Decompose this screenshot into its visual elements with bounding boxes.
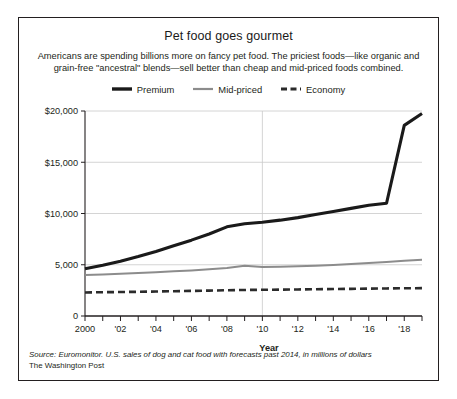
chart-subtitle: Americans are spending billions more on … (28, 50, 429, 75)
x-tick-label: '10 (256, 324, 268, 334)
x-tick-label: '14 (327, 324, 339, 334)
data-series (85, 113, 422, 292)
legend-item-economy[interactable]: Economy (281, 84, 345, 95)
source-text: Source: Euromonitor. U.S. sales of dog a… (29, 349, 372, 360)
x-tick-label: '12 (292, 324, 304, 334)
plot-area: 05,000$10,000$15,000$20,000 2000'02'04'0… (19, 101, 438, 359)
y-axis-tick-labels: 05,000$10,000$15,000$20,000 (45, 106, 78, 321)
legend-label-premium: Premium (137, 84, 175, 95)
page-title: Pet food goes gourmet (19, 29, 438, 43)
series-line-premium (85, 113, 422, 268)
series-line-mid-priced (85, 259, 422, 274)
gridlines (81, 111, 422, 316)
chart-legend: Premium Mid-priced Economy (19, 84, 438, 95)
y-tick-label: $20,000 (45, 106, 78, 116)
legend-item-mid-priced[interactable]: Mid-priced (193, 84, 262, 95)
legend-item-premium[interactable]: Premium (112, 84, 175, 95)
x-tick-label: '16 (363, 324, 375, 334)
y-tick-label: 5,000 (55, 260, 78, 270)
legend-label-mid-priced: Mid-priced (218, 84, 262, 95)
chart-canvas: 05,000$10,000$15,000$20,000 2000'02'04'0… (19, 101, 440, 359)
legend-swatch-economy (281, 85, 301, 93)
y-tick-label: $10,000 (45, 208, 78, 218)
x-tick-label: '08 (221, 324, 233, 334)
legend-label-economy: Economy (306, 84, 345, 95)
x-tick-label: '02 (114, 324, 126, 334)
legend-swatch-mid-priced (193, 85, 213, 93)
publisher-text: The Washington Post (29, 360, 372, 371)
x-tick-label: 2000 (75, 324, 95, 334)
y-tick-label: 0 (73, 311, 78, 321)
y-tick-label: $15,000 (45, 157, 78, 167)
x-axis-tick-labels: 2000'02'04'06'08'10'12'14'16'18 (75, 324, 410, 334)
x-tick-label: '18 (398, 324, 410, 334)
series-line-economy (85, 288, 422, 292)
x-tick-label: '06 (185, 324, 197, 334)
x-tick-label: '04 (150, 324, 162, 334)
source-note: Source: Euromonitor. U.S. sales of dog a… (29, 349, 372, 371)
chart-figure: Pet food goes gourmet Americans are spen… (18, 17, 439, 381)
subtitle-line-1: Americans are spending billions more on … (38, 51, 402, 61)
legend-swatch-premium (112, 85, 132, 93)
